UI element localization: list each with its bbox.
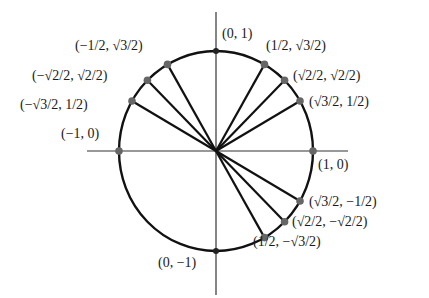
point-marker-270 [213,248,219,254]
point-label-0: (1, 0) [318,158,348,172]
point-label-120: (−1/2, √3/2) [75,39,143,53]
point-marker-90 [213,48,219,54]
point-label-135: (−√2/2, √2/2) [32,69,107,83]
point-label-30: (√3/2, 1/2) [309,95,369,109]
point-label-150: (−√3/2, 1/2) [20,98,88,112]
point-marker-150 [128,97,136,105]
point-marker-135 [144,76,152,84]
point-marker-0 [309,147,317,155]
point-label-315: (√2/2, −√2/2) [292,215,367,229]
unit-circle-diagram: (1, 0)(√3/2, 1/2)(√2/2, √2/2)(1/2, √3/2)… [0,0,429,298]
point-marker-120 [164,61,172,69]
point-marker-315 [281,218,289,226]
point-label-300: (1/2, −√3/2) [253,235,321,249]
point-label-90: (0, 1) [222,27,252,41]
unit-circle-svg [0,0,429,298]
point-label-270: (0, −1) [158,256,196,270]
point-label-45: (√2/2, √2/2) [293,69,360,83]
point-label-60: (1/2, √3/2) [266,39,326,53]
point-marker-30 [296,97,304,105]
point-marker-330 [296,197,304,205]
point-marker-45 [281,76,289,84]
point-marker-60 [261,61,269,69]
point-marker-180 [115,147,123,155]
point-label-330: (√3/2, −1/2) [309,195,377,209]
point-label-180: (−1, 0) [61,127,99,141]
